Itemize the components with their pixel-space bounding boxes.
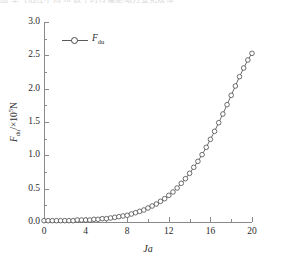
x-tick-label: 20 bbox=[247, 227, 257, 237]
data-point-marker bbox=[175, 186, 180, 191]
y-tick-label: 0.5 bbox=[28, 184, 40, 194]
y-axis-title-subscript: du bbox=[14, 130, 21, 137]
data-point-marker bbox=[212, 129, 217, 134]
series-markers-fdu bbox=[42, 51, 255, 223]
caption-text: 图 单气泡在不同 Ja 数下的冷凝驱动力变化规律 bbox=[0, 0, 283, 4]
data-point-marker bbox=[158, 199, 163, 204]
data-point-marker bbox=[250, 51, 255, 56]
legend: Fdu bbox=[62, 34, 104, 46]
legend-subscript: du bbox=[98, 38, 105, 45]
data-point-marker bbox=[196, 159, 201, 164]
x-tick-label: 0 bbox=[42, 227, 47, 237]
data-point-marker bbox=[246, 58, 251, 63]
data-point-marker bbox=[229, 93, 234, 98]
x-tick bbox=[252, 217, 253, 222]
y-axis-title-tail: N bbox=[9, 102, 19, 109]
y-tick-label: 2.0 bbox=[28, 84, 40, 94]
y-axis-title-symbol: F bbox=[9, 136, 19, 142]
y-tick-label: 3.0 bbox=[28, 17, 40, 27]
plot-area: 0.00.51.01.52.02.53.0 048121620 Ja Fdu/×… bbox=[44, 22, 252, 222]
data-point-marker bbox=[191, 165, 196, 170]
legend-marker-sample bbox=[62, 36, 88, 45]
data-point-marker bbox=[233, 84, 238, 89]
data-point-marker bbox=[179, 181, 184, 186]
data-point-marker bbox=[225, 102, 230, 107]
series-line-fdu bbox=[44, 53, 252, 220]
legend-entry-label: Fdu bbox=[92, 34, 104, 46]
data-point-marker bbox=[204, 145, 209, 150]
data-point-marker bbox=[221, 112, 226, 117]
series-plot bbox=[44, 22, 252, 222]
data-point-marker bbox=[187, 171, 192, 176]
x-tick-label: 8 bbox=[125, 227, 130, 237]
circle-marker-icon bbox=[71, 37, 78, 44]
y-axis-title: Fdu/×105N bbox=[7, 102, 21, 142]
data-point-marker bbox=[208, 137, 213, 142]
y-axis-title-unit: /×10 bbox=[9, 112, 19, 130]
data-point-marker bbox=[167, 193, 172, 198]
data-point-marker bbox=[200, 152, 205, 157]
data-point-marker bbox=[216, 120, 221, 125]
x-tick-label: 12 bbox=[164, 227, 174, 237]
data-point-marker bbox=[237, 74, 242, 79]
cropped-caption-strip: 图 单气泡在不同 Ja 数下的冷凝驱动力变化规律 bbox=[0, 0, 283, 7]
x-axis-title: Ja bbox=[143, 243, 152, 254]
data-point-marker bbox=[183, 176, 188, 181]
x-tick-label: 16 bbox=[206, 227, 216, 237]
data-point-marker bbox=[154, 202, 159, 207]
y-tick-label: 0.0 bbox=[28, 217, 40, 227]
x-tick-label: 4 bbox=[83, 227, 88, 237]
y-tick-label: 1.5 bbox=[28, 117, 40, 127]
data-point-marker bbox=[162, 196, 167, 201]
data-point-marker bbox=[241, 66, 246, 71]
y-axis-title-exponent: 5 bbox=[7, 109, 14, 112]
figure-container: 图 单气泡在不同 Ja 数下的冷凝驱动力变化规律 0.00.51.01.52.0… bbox=[0, 0, 283, 260]
y-tick-label: 1.0 bbox=[28, 151, 40, 161]
data-point-marker bbox=[171, 190, 176, 195]
y-tick-label: 2.5 bbox=[28, 51, 40, 61]
